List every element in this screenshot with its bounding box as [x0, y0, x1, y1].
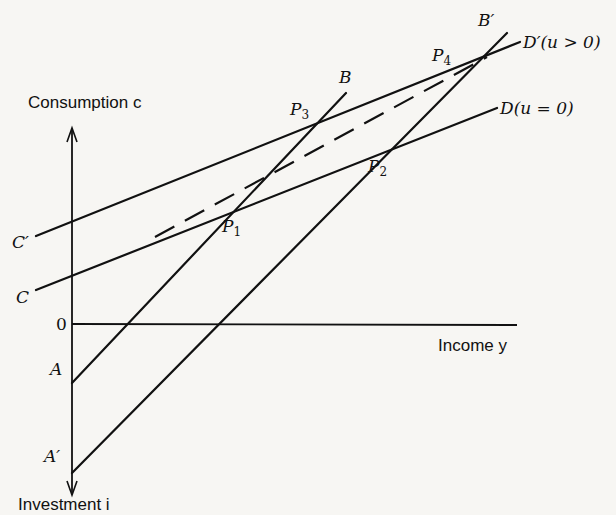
label-P3: P3	[289, 99, 309, 122]
line-C-prime-D-prime	[36, 42, 520, 236]
label-D-prime: D′(u > 0)	[522, 32, 601, 52]
y-axis-label: Consumption c	[28, 93, 142, 112]
label-C: C	[16, 287, 29, 307]
label-D: D(u = 0)	[499, 98, 574, 118]
label-A: A	[48, 359, 62, 379]
diagram-canvas: Consumption c Investment i Income y 0 C′…	[0, 0, 616, 515]
label-B-prime: B′	[477, 10, 494, 30]
origin-label: 0	[56, 314, 67, 334]
y-axis-neg-label: Investment i	[18, 495, 110, 514]
horizontal-axis	[72, 324, 517, 325]
label-P1: P1	[221, 216, 241, 239]
x-axis-label: Income y	[438, 336, 507, 355]
line-CD	[36, 108, 497, 290]
label-B: B	[338, 67, 352, 87]
label-P4: P4	[431, 45, 451, 68]
label-C-prime: C′	[12, 232, 29, 252]
label-A-prime: A′	[42, 446, 60, 466]
dashed-line	[155, 57, 487, 237]
label-P2: P2	[367, 156, 387, 179]
